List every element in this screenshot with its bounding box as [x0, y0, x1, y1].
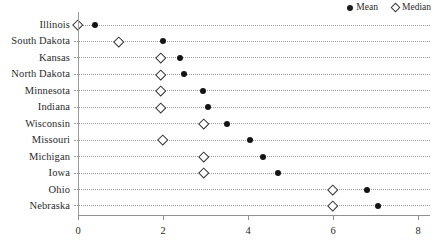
- category-label-indiana: Indiana: [0, 100, 70, 114]
- median-marker: [113, 36, 124, 47]
- median-marker: [328, 201, 339, 212]
- gridline: [74, 74, 430, 75]
- y-axis-line: [78, 12, 79, 215]
- x-axis-tick: [418, 215, 419, 220]
- category-label-minnesota: Minnesota: [0, 84, 70, 98]
- median-marker: [158, 135, 169, 146]
- chart-row: Ohio: [0, 183, 439, 197]
- gridline: [74, 90, 430, 91]
- gridline: [74, 123, 430, 124]
- x-axis-tick: [333, 215, 334, 220]
- gridline: [74, 156, 430, 157]
- mean-marker: [247, 137, 253, 143]
- x-axis-tick-label: 0: [63, 225, 93, 237]
- gridline: [74, 25, 430, 26]
- x-axis-tick-label: 6: [318, 225, 348, 237]
- category-label-nebraska: Nebraska: [0, 199, 70, 213]
- dot-chart: Mean Median IllinoisSouth DakotaKansasNo…: [0, 0, 439, 250]
- mean-marker: [92, 22, 98, 28]
- category-label-ohio: Ohio: [0, 183, 70, 197]
- median-marker: [198, 118, 209, 129]
- x-axis-tick: [78, 215, 79, 220]
- mean-marker: [205, 104, 211, 110]
- category-label-wisconsin: Wisconsin: [0, 117, 70, 131]
- chart-row: Michigan: [0, 150, 439, 164]
- median-marker: [198, 151, 209, 162]
- x-axis-tick-label: 4: [233, 225, 263, 237]
- x-axis-tick: [163, 215, 164, 220]
- x-axis-tick-label: 2: [148, 225, 178, 237]
- median-marker: [156, 85, 167, 96]
- median-marker: [328, 184, 339, 195]
- mean-marker: [181, 71, 187, 77]
- gridline: [74, 173, 430, 174]
- chart-row: Kansas: [0, 51, 439, 65]
- chart-row: Iowa: [0, 166, 439, 180]
- chart-row: Minnesota: [0, 84, 439, 98]
- category-label-south-dakota: South Dakota: [0, 34, 70, 48]
- mean-marker: [275, 170, 281, 176]
- gridline: [74, 41, 430, 42]
- mean-marker: [224, 121, 230, 127]
- x-axis-line: [78, 215, 430, 216]
- x-axis-tick: [248, 215, 249, 220]
- median-marker: [156, 69, 167, 80]
- mean-marker: [177, 55, 183, 61]
- chart-row: Indiana: [0, 100, 439, 114]
- median-marker: [198, 168, 209, 179]
- mean-marker: [160, 38, 166, 44]
- mean-marker: [260, 154, 266, 160]
- gridline: [74, 57, 430, 58]
- mean-marker: [375, 203, 381, 209]
- mean-marker: [364, 187, 370, 193]
- median-marker: [156, 102, 167, 113]
- category-label-north-dakota: North Dakota: [0, 67, 70, 81]
- x-axis-tick-label: 8: [403, 225, 433, 237]
- chart-row: Illinois: [0, 18, 439, 32]
- category-label-kansas: Kansas: [0, 51, 70, 65]
- chart-row: South Dakota: [0, 34, 439, 48]
- plot-area: IllinoisSouth DakotaKansasNorth DakotaMi…: [0, 0, 439, 250]
- chart-row: Missouri: [0, 133, 439, 147]
- category-label-illinois: Illinois: [0, 18, 70, 32]
- chart-row: Wisconsin: [0, 117, 439, 131]
- mean-marker: [200, 88, 206, 94]
- chart-row: Nebraska: [0, 199, 439, 213]
- gridline: [74, 107, 430, 108]
- category-label-iowa: Iowa: [0, 166, 70, 180]
- category-label-missouri: Missouri: [0, 133, 70, 147]
- median-marker: [156, 53, 167, 64]
- category-label-michigan: Michigan: [0, 150, 70, 164]
- gridline: [74, 189, 430, 190]
- chart-row: North Dakota: [0, 67, 439, 81]
